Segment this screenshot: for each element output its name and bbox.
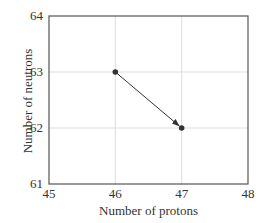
decay-arrow bbox=[115, 72, 179, 126]
y-axis-label: Number of neutrons bbox=[20, 31, 36, 171]
x-tick-label: 45 bbox=[37, 187, 61, 200]
data-point bbox=[179, 125, 185, 131]
data-series bbox=[113, 69, 185, 131]
y-tick-label: 64 bbox=[19, 9, 43, 22]
data-point bbox=[113, 69, 119, 75]
x-axis-label: Number of protons bbox=[49, 203, 248, 219]
x-tick-label: 47 bbox=[170, 187, 194, 200]
x-tick-label: 48 bbox=[236, 187, 260, 200]
x-tick-label: 46 bbox=[103, 187, 127, 200]
